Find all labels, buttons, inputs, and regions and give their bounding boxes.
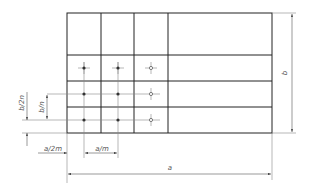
dimension-b: b xyxy=(272,13,296,133)
label-b-over-2n: b/2n xyxy=(18,95,26,111)
dimension-b-over-2n: b/2n xyxy=(18,92,27,146)
dimension-a: a xyxy=(67,133,272,183)
label-a-over-2m: a/2m xyxy=(44,145,62,153)
dimension-a-over-2m: a/2m xyxy=(38,145,67,153)
point-marker xyxy=(82,92,85,95)
point-marker xyxy=(149,114,152,126)
outer-rectangle xyxy=(67,13,272,133)
label-a-over-m: a/m xyxy=(95,145,109,153)
grid-columns xyxy=(101,13,168,133)
point-marker xyxy=(82,118,85,121)
dimension-b-over-n: b/n xyxy=(38,95,47,119)
point-marker xyxy=(116,92,119,95)
point-marker xyxy=(116,118,119,121)
dimension-a-over-m: a/m xyxy=(85,145,117,153)
label-a: a xyxy=(168,164,172,172)
grid-rows xyxy=(67,55,272,107)
point-marker xyxy=(149,88,152,100)
label-b-over-n: b/n xyxy=(38,101,46,112)
point-marker xyxy=(78,62,90,74)
point-marker xyxy=(112,62,124,74)
measurement-grid-diagram: b a a/2m a/m b/n b/2n xyxy=(0,0,309,189)
point-marker xyxy=(145,62,157,74)
label-b: b xyxy=(281,70,289,75)
